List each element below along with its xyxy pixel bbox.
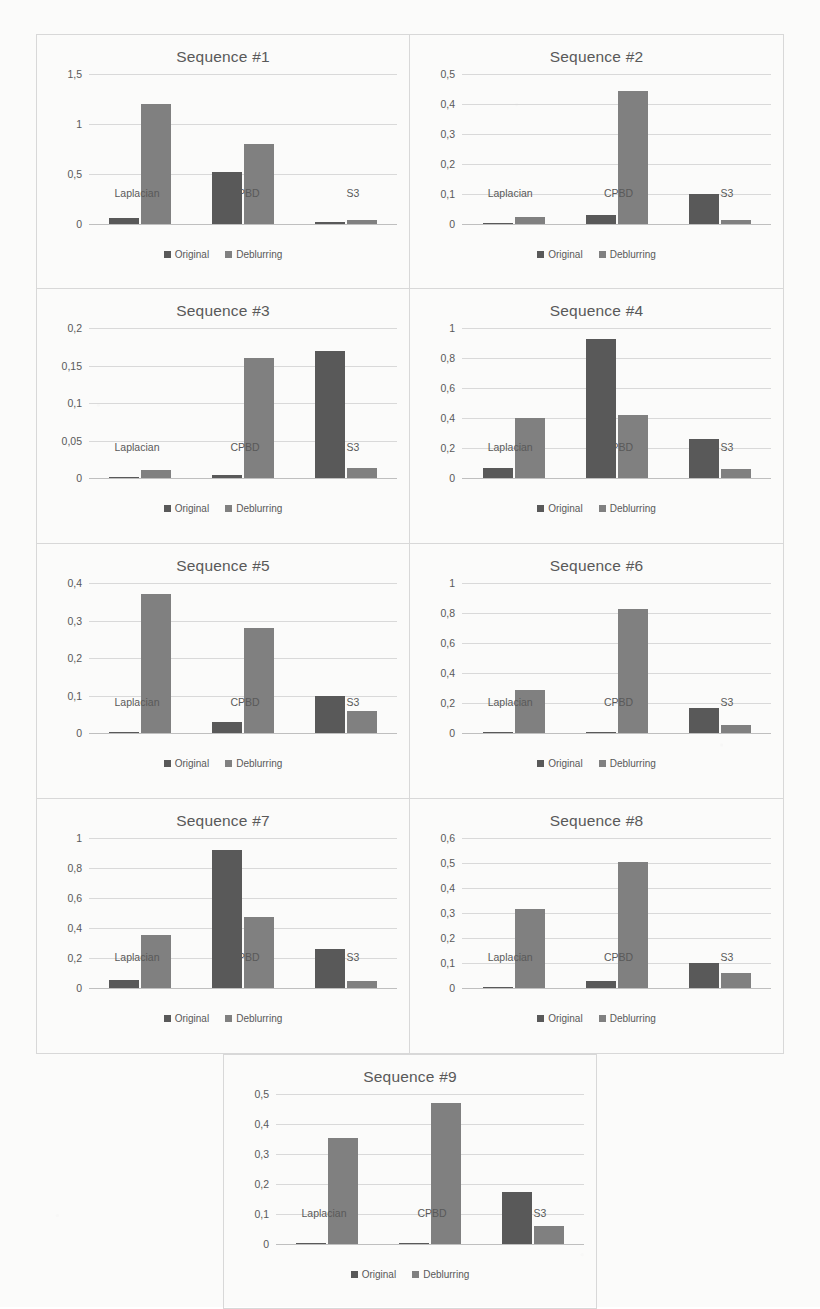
y-axis-tick-label: 0,5 (440, 857, 455, 869)
y-axis: 00,511,5 (43, 74, 87, 224)
bar-original (109, 980, 139, 988)
y-axis-tick-label: 0,4 (440, 412, 455, 424)
legend-label: Original (548, 758, 582, 769)
bar-original (483, 223, 513, 225)
chart-panel-sequence-5: Sequence #500,10,20,30,4LaplacianCPBDS3O… (36, 544, 410, 799)
bar-deblurring (515, 909, 545, 988)
bars-layer (462, 838, 771, 988)
x-axis-tick-label: Laplacian (83, 696, 191, 708)
bar-group (294, 838, 397, 988)
legend-swatch-deblurring-icon (225, 760, 232, 767)
x-axis-tick-label: S3 (673, 951, 781, 963)
bar-deblurring (141, 470, 171, 478)
bar-original (483, 987, 513, 988)
plot-area (276, 1094, 584, 1244)
axis-baseline (462, 733, 771, 734)
axis-baseline (276, 1244, 584, 1245)
legend-item-deblurring: Deblurring (599, 758, 656, 769)
plot-area-wrapper: 00,050,10,150,2 (43, 328, 399, 478)
plot-area-wrapper: 00,10,20,30,4 (43, 583, 399, 733)
legend-swatch-deblurring-icon (599, 760, 606, 767)
plot-area-wrapper: 00,10,20,30,40,5 (416, 74, 773, 224)
chart-legend: OriginalDeblurring (410, 1013, 783, 1024)
legend-swatch-original-icon (164, 1015, 171, 1022)
y-axis-tick-label: 0,8 (67, 862, 82, 874)
x-axis-labels: LaplacianCPBDS3 (83, 696, 407, 708)
y-axis-tick-label: 0,4 (440, 667, 455, 679)
chart-legend: OriginalDeblurring (224, 1269, 596, 1280)
plot-area-wrapper: 00,10,20,30,40,5 (230, 1094, 586, 1244)
chart-panel-sequence-9: Sequence #900,10,20,30,40,5LaplacianCPBD… (223, 1054, 597, 1309)
y-axis-tick-label: 0,2 (440, 932, 455, 944)
bar-deblurring (141, 594, 171, 733)
chart-panel-sequence-4: Sequence #400,20,40,60,81LaplacianCPBDS3… (410, 289, 784, 544)
chart-row-5: Sequence #900,10,20,30,40,5LaplacianCPBD… (36, 1054, 784, 1309)
y-axis-tick-label: 1 (449, 577, 455, 589)
chart-legend: OriginalDeblurring (37, 249, 409, 260)
legend-label: Original (175, 758, 209, 769)
bar-group (668, 583, 771, 733)
legend-label: Original (175, 503, 209, 514)
bar-original (109, 732, 139, 733)
x-axis-tick-label: S3 (299, 696, 407, 708)
y-axis-tick-label: 0,4 (67, 577, 82, 589)
legend-item-deblurring: Deblurring (599, 1013, 656, 1024)
bar-group (462, 74, 565, 224)
chart-panel-sequence-6: Sequence #600,20,40,60,81LaplacianCPBDS3… (410, 544, 784, 799)
plot-area-wrapper: 00,511,5 (43, 74, 399, 224)
y-axis-tick-label: 0 (449, 218, 455, 230)
legend-swatch-original-icon (164, 505, 171, 512)
plot-area (89, 838, 397, 988)
y-axis-tick-label: 0,2 (67, 652, 82, 664)
x-axis-tick-label: CPBD (191, 187, 299, 199)
y-axis-tick-label: 0 (76, 982, 82, 994)
legend-label: Original (362, 1269, 396, 1280)
legend-label: Deblurring (236, 249, 282, 260)
bar-original (483, 732, 513, 733)
x-axis-tick-label: Laplacian (83, 187, 191, 199)
bar-original (689, 963, 719, 988)
y-axis: 00,10,20,30,40,50,6 (416, 838, 460, 988)
bar-group (565, 74, 668, 224)
chart-title: Sequence #3 (37, 289, 409, 320)
chart-row-1: Sequence #100,511,5LaplacianCPBDS3Origin… (36, 34, 784, 289)
y-axis-tick-label: 0,4 (254, 1118, 269, 1130)
x-axis-tick-label: CPBD (378, 1207, 486, 1219)
x-axis-labels: LaplacianCPBDS3 (83, 441, 407, 453)
chart-legend: OriginalDeblurring (410, 249, 783, 260)
bar-group (668, 328, 771, 478)
bar-group (89, 328, 192, 478)
y-axis-tick-label: 0,05 (62, 435, 82, 447)
bar-original (586, 981, 616, 989)
chart-legend: OriginalDeblurring (410, 503, 783, 514)
y-axis-tick-label: 0 (76, 472, 82, 484)
axis-baseline (462, 988, 771, 989)
y-axis-tick-label: 1,5 (67, 68, 82, 80)
plot-area (462, 328, 771, 478)
bar-group (89, 838, 192, 988)
axis-baseline (462, 478, 771, 479)
x-axis-labels: LaplacianCPBDS3 (456, 441, 781, 453)
y-axis-tick-label: 0 (76, 727, 82, 739)
bars-layer (462, 328, 771, 478)
legend-swatch-deblurring-icon (599, 251, 606, 258)
bar-original (586, 339, 616, 479)
bar-deblurring (347, 711, 377, 734)
bar-original (586, 732, 616, 733)
bar-group (192, 838, 295, 988)
y-axis-tick-label: 0,1 (67, 397, 82, 409)
y-axis: 00,20,40,60,81 (416, 583, 460, 733)
x-axis-tick-label: S3 (299, 441, 407, 453)
legend-swatch-deblurring-icon (225, 1015, 232, 1022)
legend-item-original: Original (537, 249, 582, 260)
x-axis-labels: LaplacianCPBDS3 (270, 1207, 594, 1219)
y-axis-tick-label: 0,1 (440, 188, 455, 200)
y-axis-tick-label: 0,3 (440, 907, 455, 919)
bar-group (481, 1094, 584, 1244)
axis-baseline (462, 224, 771, 225)
axis-baseline (89, 733, 397, 734)
legend-label: Deblurring (610, 1013, 656, 1024)
legend-item-original: Original (537, 503, 582, 514)
y-axis-tick-label: 1 (76, 832, 82, 844)
bar-original (315, 351, 345, 479)
